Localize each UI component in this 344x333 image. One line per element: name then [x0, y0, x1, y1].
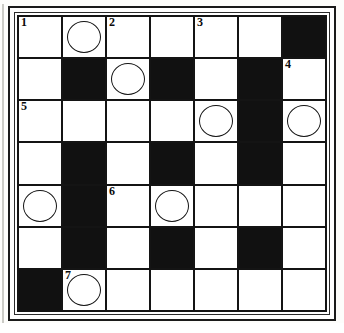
circle-marker-icon	[111, 63, 145, 95]
circle-marker-icon	[67, 274, 101, 306]
clue-number: 5	[21, 100, 27, 112]
puzzle-outer-frame: 1234567	[8, 6, 336, 321]
crossword-open-cell[interactable]	[107, 143, 151, 185]
crossword-open-cell[interactable]	[107, 59, 151, 101]
crossword-open-cell[interactable]	[107, 101, 151, 143]
crossword-open-cell[interactable]	[195, 186, 239, 228]
crossword-open-cell[interactable]: 4	[283, 59, 327, 101]
crossword-open-cell[interactable]	[107, 270, 151, 312]
crossword-block-cell	[151, 228, 195, 270]
crossword-open-cell[interactable]	[19, 59, 63, 101]
crossword-open-cell[interactable]	[151, 101, 195, 143]
crossword-open-cell[interactable]	[151, 17, 195, 59]
circle-marker-icon	[67, 21, 101, 53]
crossword-block-cell	[239, 143, 283, 185]
clue-number: 4	[285, 58, 291, 70]
crossword-open-cell[interactable]	[63, 17, 107, 59]
crossword-open-cell[interactable]: 7	[63, 270, 107, 312]
crossword-open-cell[interactable]	[19, 186, 63, 228]
crossword-open-cell[interactable]: 1	[19, 17, 63, 59]
crossword-open-cell[interactable]	[195, 228, 239, 270]
clue-number: 6	[109, 185, 115, 197]
crossword-block-cell	[63, 186, 107, 228]
circle-marker-icon	[287, 105, 321, 137]
crossword-open-cell[interactable]: 5	[19, 101, 63, 143]
crossword-block-cell	[239, 59, 283, 101]
crossword-open-cell[interactable]	[239, 270, 283, 312]
crossword-open-cell[interactable]: 2	[107, 17, 151, 59]
circle-marker-icon	[155, 190, 189, 222]
circle-marker-icon	[23, 190, 57, 222]
scan-edge-artifact	[2, 4, 4, 324]
crossword-block-cell	[63, 59, 107, 101]
crossword-block-cell	[63, 228, 107, 270]
crossword-open-cell[interactable]	[283, 186, 327, 228]
crossword-block-cell	[151, 143, 195, 185]
crossword-open-cell[interactable]	[239, 186, 283, 228]
clue-number: 1	[21, 16, 27, 28]
crossword-open-cell[interactable]	[239, 17, 283, 59]
crossword-block-cell	[151, 59, 195, 101]
crossword-open-cell[interactable]	[195, 101, 239, 143]
clue-number: 3	[197, 16, 203, 28]
crossword-block-cell	[63, 143, 107, 185]
crossword-block-cell	[239, 101, 283, 143]
crossword-grid[interactable]: 1234567	[17, 15, 327, 312]
crossword-scan-area: 1234567	[0, 0, 344, 333]
crossword-open-cell[interactable]	[195, 59, 239, 101]
clue-number: 7	[65, 269, 71, 281]
crossword-open-cell[interactable]	[283, 270, 327, 312]
crossword-open-cell[interactable]	[19, 228, 63, 270]
crossword-open-cell[interactable]	[19, 143, 63, 185]
crossword-open-cell[interactable]: 6	[107, 186, 151, 228]
crossword-open-cell[interactable]	[107, 228, 151, 270]
crossword-block-cell	[283, 17, 327, 59]
crossword-open-cell[interactable]	[151, 186, 195, 228]
crossword-open-cell[interactable]	[151, 270, 195, 312]
circle-marker-icon	[199, 105, 233, 137]
crossword-open-cell[interactable]	[283, 143, 327, 185]
clue-number: 2	[109, 16, 115, 28]
crossword-open-cell[interactable]: 3	[195, 17, 239, 59]
crossword-open-cell[interactable]	[63, 101, 107, 143]
crossword-block-cell	[239, 228, 283, 270]
crossword-open-cell[interactable]	[283, 228, 327, 270]
crossword-block-cell	[19, 270, 63, 312]
crossword-open-cell[interactable]	[283, 101, 327, 143]
crossword-open-cell[interactable]	[195, 143, 239, 185]
page-bottom-margin	[0, 323, 344, 333]
crossword-open-cell[interactable]	[195, 270, 239, 312]
puzzle-inner-frame: 1234567	[14, 12, 330, 315]
